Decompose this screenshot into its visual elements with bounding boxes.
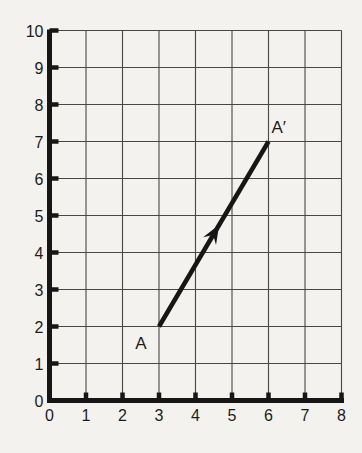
y-tick-label: 4 — [35, 245, 44, 262]
y-tick-label: 0 — [35, 393, 44, 410]
y-tick-label: 3 — [35, 282, 44, 299]
x-tick-label: 2 — [118, 407, 127, 424]
point-label-A-prime: A′ — [272, 118, 287, 137]
y-tick-label: 8 — [35, 97, 44, 114]
x-tick-label: 6 — [264, 407, 273, 424]
x-tick-label: 7 — [301, 407, 310, 424]
y-tick-label: 2 — [35, 319, 44, 336]
x-tick-label: 8 — [337, 407, 346, 424]
x-tick-label: 4 — [191, 407, 200, 424]
point-label-A: A — [135, 334, 147, 353]
y-tick-label: 6 — [35, 171, 44, 188]
x-tick-label: 5 — [228, 407, 237, 424]
x-tick-label: 1 — [82, 407, 91, 424]
x-tick-label: 0 — [45, 407, 54, 424]
y-tick-label: 7 — [35, 134, 44, 151]
y-tick-label: 5 — [35, 208, 44, 225]
graph-figure: 012345678910012345678AA′ — [0, 0, 362, 453]
x-tick-label: 3 — [155, 407, 164, 424]
y-tick-label: 9 — [35, 60, 44, 77]
y-tick-label: 10 — [26, 23, 44, 40]
coordinate-grid-plot: 012345678910012345678AA′ — [0, 0, 362, 453]
y-tick-label: 1 — [35, 356, 44, 373]
